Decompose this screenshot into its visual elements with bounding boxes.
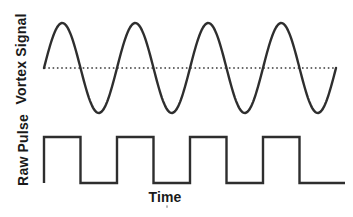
waveform-figure: Vortex Signal Raw Pulse Time <box>0 0 353 217</box>
scan-speck <box>166 205 168 208</box>
vortex-signal-axis-label: Vortex Signal <box>13 13 29 104</box>
raw-pulse-wave <box>44 137 345 183</box>
time-axis-label: Time <box>148 189 181 205</box>
waveform-canvas <box>0 0 353 217</box>
raw-pulse-axis-label: Raw Pulse <box>15 114 31 186</box>
